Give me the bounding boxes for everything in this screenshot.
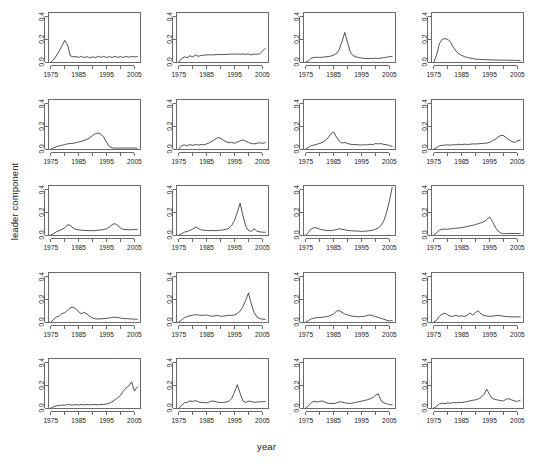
x-tick-label: 1985 <box>454 244 469 251</box>
plot-frame <box>431 272 523 322</box>
x-tick-label: 1985 <box>326 417 341 424</box>
panel-13: 0.00.20.41975198519952005 <box>22 266 146 352</box>
plot-frame <box>303 12 395 62</box>
series-line <box>178 203 264 235</box>
y-tick-label: 0.2 <box>165 294 172 303</box>
y-tick-label: 0.2 <box>293 380 300 389</box>
y-tick-label: 0.4 <box>165 358 172 367</box>
y-tick-label: 0.4 <box>38 98 45 107</box>
panel-5: 0.00.20.41975198519952005 <box>22 93 146 179</box>
y-tick-label: 0.4 <box>38 185 45 194</box>
plot-frame <box>431 99 523 149</box>
x-tick-label: 1995 <box>482 417 497 424</box>
x-tick-label: 1985 <box>71 244 86 251</box>
x-tick-label: 2005 <box>127 330 142 337</box>
y-tick-label: 0.4 <box>165 185 172 194</box>
y-tick-label: 0.0 <box>293 144 300 153</box>
series-line <box>433 39 519 62</box>
y-tick-label: 0.0 <box>165 317 172 326</box>
y-tick-label: 0.0 <box>38 317 45 326</box>
multi-panel-chart: leader component 0.00.20.419751985199520… <box>0 0 533 466</box>
x-tick-label: 2005 <box>255 417 270 424</box>
y-tick-label: 0.2 <box>38 294 45 303</box>
x-tick-label: 1995 <box>99 71 114 78</box>
x-tick-label: 1995 <box>99 157 114 164</box>
x-tick-label: 1985 <box>454 71 469 78</box>
x-tick-label: 1975 <box>171 157 186 164</box>
x-tick-label: 2005 <box>382 157 397 164</box>
x-tick-label: 1975 <box>171 330 186 337</box>
panel-9: 0.00.20.41975198519952005 <box>22 179 146 265</box>
series-line <box>306 394 392 408</box>
y-tick-label: 0.2 <box>165 34 172 43</box>
panel-6: 0.00.20.41975198519952005 <box>150 93 274 179</box>
y-tick-label: 0.0 <box>165 230 172 239</box>
x-tick-label: 1995 <box>354 330 369 337</box>
x-tick-label: 1995 <box>227 157 242 164</box>
y-tick-label: 0.2 <box>420 380 427 389</box>
y-tick-label: 0.4 <box>38 12 45 21</box>
y-tick-label: 0.4 <box>38 271 45 280</box>
x-tick-label: 2005 <box>382 417 397 424</box>
x-tick-label: 1975 <box>298 244 313 251</box>
plot-frame <box>48 185 140 235</box>
y-tick-label: 0.0 <box>165 57 172 66</box>
x-tick-label: 2005 <box>510 244 525 251</box>
x-tick-label: 2005 <box>127 417 142 424</box>
y-tick-label: 0.0 <box>293 317 300 326</box>
x-tick-label: 1995 <box>354 244 369 251</box>
y-tick-label: 0.4 <box>165 98 172 107</box>
x-tick-label: 1985 <box>326 330 341 337</box>
y-tick-label: 0.0 <box>38 403 45 412</box>
y-axis-title: leader component <box>9 142 20 262</box>
x-tick-label: 1975 <box>426 71 441 78</box>
x-tick-label: 1975 <box>43 157 58 164</box>
plot-frame <box>176 272 268 322</box>
series-line <box>178 293 264 322</box>
y-tick-label: 0.2 <box>165 380 172 389</box>
y-tick-label: 0.4 <box>293 358 300 367</box>
x-tick-label: 2005 <box>255 244 270 251</box>
series-line <box>51 40 137 62</box>
y-tick-label: 0.4 <box>293 98 300 107</box>
y-tick-label: 0.4 <box>420 271 427 280</box>
y-tick-label: 0.2 <box>38 380 45 389</box>
x-tick-label: 1975 <box>43 244 58 251</box>
x-tick-label: 1975 <box>426 330 441 337</box>
panel-3: 0.00.20.41975198519952005 <box>277 6 401 92</box>
x-tick-label: 1995 <box>482 244 497 251</box>
series-line <box>178 48 264 62</box>
x-tick-label: 1985 <box>199 417 214 424</box>
y-tick-label: 0.0 <box>38 144 45 153</box>
y-tick-label: 0.0 <box>420 317 427 326</box>
series-line <box>306 187 392 235</box>
panel-12: 0.00.20.41975198519952005 <box>405 179 529 265</box>
panel-19: 0.00.20.41975198519952005 <box>277 352 401 438</box>
y-tick-label: 0.4 <box>165 12 172 21</box>
y-tick-label: 0.4 <box>38 358 45 367</box>
x-tick-label: 2005 <box>255 71 270 78</box>
x-tick-label: 1985 <box>454 330 469 337</box>
panel-8: 0.00.20.41975198519952005 <box>405 93 529 179</box>
x-tick-label: 1985 <box>454 417 469 424</box>
panel-grid: 0.00.20.419751985199520050.00.20.4197519… <box>22 6 533 438</box>
x-tick-label: 2005 <box>255 330 270 337</box>
x-tick-label: 1985 <box>454 157 469 164</box>
series-line <box>306 131 392 148</box>
x-tick-label: 1985 <box>326 244 341 251</box>
y-tick-label: 0.4 <box>420 12 427 21</box>
panel-16: 0.00.20.41975198519952005 <box>405 266 529 352</box>
plot-frame <box>48 358 140 408</box>
series-line <box>433 310 519 321</box>
y-tick-label: 0.2 <box>420 294 427 303</box>
series-line <box>433 135 519 149</box>
y-tick-label: 0.4 <box>293 12 300 21</box>
plot-frame <box>176 99 268 149</box>
plot-frame <box>48 99 140 149</box>
panel-11: 0.00.20.41975198519952005 <box>277 179 401 265</box>
x-tick-label: 1985 <box>326 71 341 78</box>
series-line <box>306 32 392 62</box>
x-tick-label: 1995 <box>354 71 369 78</box>
x-tick-label: 1975 <box>426 157 441 164</box>
x-tick-label: 2005 <box>382 71 397 78</box>
